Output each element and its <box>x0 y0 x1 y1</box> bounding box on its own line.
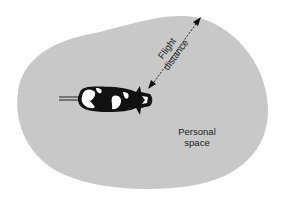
flight-zone-diagram: Flight distance Personal space <box>0 0 281 202</box>
personal-label-line2: space <box>184 137 209 148</box>
personal-label-line1: Personal <box>178 126 216 137</box>
